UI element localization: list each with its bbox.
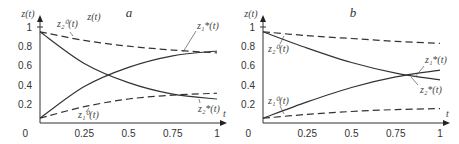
y-tick-label: 0.4 [18,80,32,91]
x-axis-label: t [223,108,226,119]
x-axis-arrow-icon [443,120,450,126]
y-tick-label: 1 [249,22,255,33]
y-tick-label: 0.6 [18,60,32,71]
series-label: z₁⁰(t) [77,109,99,121]
y-tick-label: 0.2 [241,99,255,110]
series-label: z₂*(t) [419,84,442,96]
panel-title: a [126,5,133,20]
label-leader [411,77,418,85]
series-label: z₁*(t) [196,20,219,32]
series-line [263,109,440,119]
label-leader [70,32,73,36]
y-tick-label: 0.8 [18,41,32,52]
x-tick-label: 0.75 [386,128,406,139]
x-axis-arrow-icon [220,120,227,126]
x-tick-label: 1 [214,128,220,139]
series-label: z₁*(t) [424,54,447,66]
panel-b: 0.20.40.60.810.250.50.7510z(t)tbz₂⁰(t)z₂… [241,5,450,139]
y-tick-label: 0.2 [18,99,32,110]
y-tick-label: 0.6 [241,60,255,71]
x-tick-label: 1 [437,128,443,139]
y-tick-label: 0.4 [241,80,255,91]
series-line [40,51,217,118]
origin-label: 0 [22,128,28,139]
series-label: z₂⁰(t) [267,43,289,55]
y-tick-label: 0.8 [241,41,255,52]
y-axis-arrow-icon [260,15,266,22]
y-axis-label: z(t) [243,8,258,20]
y-axis-arrow-icon [37,15,43,22]
x-tick-label: 0.75 [163,128,183,139]
series-label: z₂⁰(t) [56,18,78,30]
series-label: z₁⁰(t) [267,95,289,107]
series-line [40,32,217,99]
figure: 0.20.40.60.810.250.50.7510z(t)taz(t)z₂⁰(… [0,0,459,144]
series-label: z₂*(t) [197,103,220,115]
x-tick-label: 0.5 [122,128,136,139]
x-axis-label: t [446,108,449,119]
panel-a: 0.20.40.60.810.250.50.7510z(t)taz(t)z₂⁰(… [18,5,227,139]
x-tick-label: 0.5 [345,128,359,139]
y-tick-label: 1 [26,22,32,33]
origin-label: 0 [245,128,251,139]
panel-title: b [350,5,357,20]
series-line [40,32,217,53]
label-leader [415,66,424,77]
x-tick-label: 0.25 [298,128,318,139]
x-tick-label: 0.25 [75,128,95,139]
label-leader [183,31,196,52]
annotation: z(t) [86,11,101,23]
y-axis-label: z(t) [20,8,35,20]
